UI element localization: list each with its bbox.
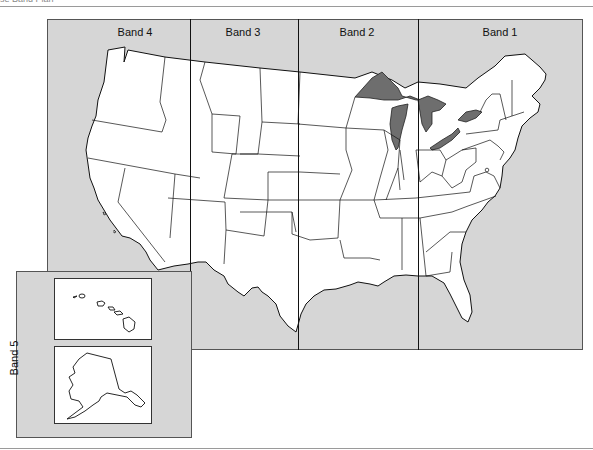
band-5-label: Band 5	[8, 341, 20, 376]
band-2-label: Band 2	[340, 26, 375, 38]
band-4-label: Band 4	[118, 26, 153, 38]
band-1-label: Band 1	[483, 26, 518, 38]
hawaii-map	[55, 279, 151, 339]
band-3-label: Band 3	[226, 26, 261, 38]
band-divider-2-1	[418, 19, 420, 350]
alaska-map	[55, 347, 151, 423]
band-5-inset	[16, 271, 192, 438]
hawaii-panel	[54, 278, 152, 340]
band-divider-3-2	[298, 19, 300, 350]
bottom-rule	[0, 448, 593, 449]
alaska-panel	[54, 346, 152, 424]
